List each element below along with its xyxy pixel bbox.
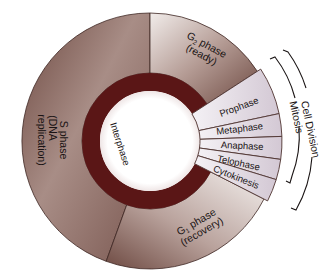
svg-text:replication): replication) bbox=[36, 114, 48, 165]
cell-cycle-diagram: G2 phase (ready) S phase (DNA replicatio… bbox=[0, 0, 328, 279]
anaphase-label: Anaphase bbox=[221, 139, 264, 152]
